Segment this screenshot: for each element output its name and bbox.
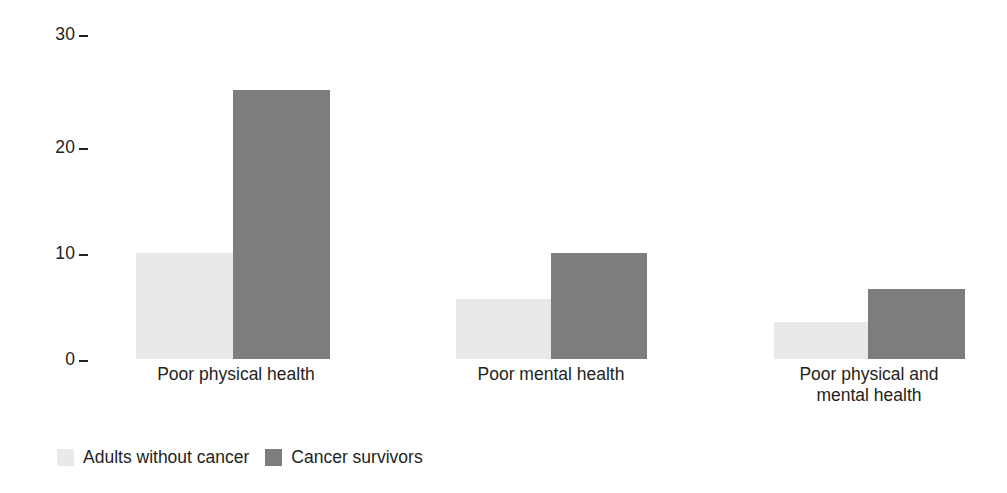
category-label-line: mental health xyxy=(799,385,938,406)
bar xyxy=(868,289,965,359)
legend-item[interactable]: Cancer survivors xyxy=(265,447,422,467)
y-axis-tick-mark xyxy=(79,148,88,150)
y-axis-tick-mark xyxy=(79,360,88,362)
y-axis-tick-label: 0 xyxy=(65,348,75,370)
bar xyxy=(774,322,868,359)
chart-legend: Adults without cancerCancer survivors xyxy=(57,447,423,467)
legend-swatch-icon xyxy=(265,449,282,466)
bar xyxy=(233,90,330,359)
bar xyxy=(136,253,233,359)
category-label-text: Poor physical health xyxy=(157,364,315,385)
legend-label: Cancer survivors xyxy=(291,447,422,467)
y-axis-tick: 0 xyxy=(65,348,88,370)
y-axis-tick-label: 10 xyxy=(55,242,75,264)
bar-chart-plot-area: 3020100 Poor physical healthPoor mental … xyxy=(0,0,1007,400)
y-axis-tick-label: 20 xyxy=(55,136,75,158)
y-axis-tick: 10 xyxy=(55,242,88,264)
bar xyxy=(456,299,551,359)
category-label-text: Poor physical andmental health xyxy=(799,364,938,406)
chart-page: 3020100 Poor physical healthPoor mental … xyxy=(0,0,1007,493)
legend-item[interactable]: Adults without cancer xyxy=(57,447,249,467)
y-axis-tick: 20 xyxy=(55,136,88,158)
category-label-line: Poor physical and xyxy=(799,364,938,385)
legend-swatch-icon xyxy=(57,449,74,466)
category-label-line: Poor mental health xyxy=(478,364,625,385)
y-axis-tick-mark xyxy=(79,35,88,37)
bar xyxy=(551,253,647,359)
category-label-line: Poor physical health xyxy=(157,364,315,385)
y-axis-tick-mark xyxy=(79,254,88,256)
y-axis-tick-label: 30 xyxy=(55,23,75,45)
category-label-text: Poor mental health xyxy=(478,364,625,385)
y-axis-tick: 30 xyxy=(55,23,88,45)
legend-label: Adults without cancer xyxy=(83,447,249,467)
